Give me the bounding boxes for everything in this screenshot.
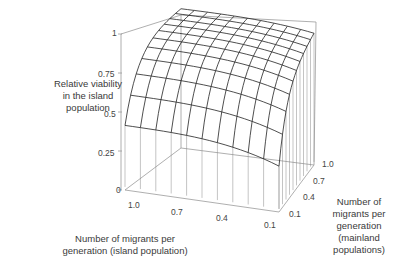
surface-line [142, 59, 290, 95]
y-axis-label: Number of migrants per generation (mainl… [323, 196, 395, 256]
z-axis-label-line: Relative viability [52, 78, 124, 90]
surface-line [153, 38, 297, 71]
surface-wireframe [125, 9, 314, 209]
axis-line [125, 148, 181, 190]
surface-line [136, 74, 286, 111]
z-tick: 0.75 [98, 69, 115, 79]
z-tick: 0.5 [104, 109, 116, 119]
surface-line [171, 14, 221, 132]
x-axis-label: Number of migrants per generation (islan… [40, 233, 210, 257]
x-tick: 0.4 [216, 213, 228, 223]
surface-line [140, 10, 194, 127]
y-axis-label-line: populations) [323, 244, 395, 256]
surface-line [125, 9, 181, 126]
x-tick: 0.1 [264, 220, 276, 230]
surface-line [131, 95, 283, 134]
y-axis-label-line: (mainland [323, 232, 395, 244]
y-axis-label-line: migrants per [323, 208, 395, 220]
y-axis-label-line: Number of [323, 196, 395, 208]
x-axis-label-line: generation (island population) [40, 245, 210, 257]
z-tick: 1 [112, 28, 117, 38]
x-tick: 0.7 [171, 207, 183, 217]
axis-line [314, 22, 316, 165]
y-tick: 0.4 [303, 192, 315, 202]
axis-line [181, 148, 314, 165]
y-tick: 0.1 [289, 209, 301, 219]
z-tick: 0 [116, 185, 121, 195]
z-axis-label-line: in the island [52, 90, 124, 102]
z-tick: 0.25 [98, 148, 115, 158]
axis-line [121, 15, 181, 34]
x-tick: 1.0 [128, 200, 140, 210]
y-axis-label-line: generation [323, 220, 395, 232]
x-axis-label-line: Number of migrants per [40, 233, 210, 245]
y-tick: 1.0 [322, 159, 334, 169]
y-tick: 0.7 [313, 176, 325, 186]
surface-line [159, 30, 300, 61]
